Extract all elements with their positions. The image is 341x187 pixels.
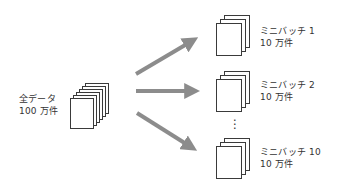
mini-batch-2-name: ミニバッチ 2 (260, 79, 315, 91)
mini-batch-10-count: 10 万件 (260, 158, 321, 170)
arrow-to-batch-1 (136, 41, 192, 74)
mini-batch-1-count: 10 万件 (260, 37, 315, 49)
mini-batch-2-label: ミニバッチ 2 10 万件 (260, 79, 315, 103)
mini-batch-2-count: 10 万件 (260, 91, 315, 103)
mini-batch-1-label: ミニバッチ 1 10 万件 (260, 25, 315, 49)
mini-batch-10-label: ミニバッチ 10 10 万件 (260, 146, 321, 170)
mini-batch-10-name: ミニバッチ 10 (260, 146, 321, 158)
ellipsis-icon: ⋮ (229, 118, 241, 130)
document-page-icon (216, 146, 242, 179)
arrow-to-batch-10 (137, 113, 191, 147)
mini-batch-1-name: ミニバッチ 1 (260, 25, 315, 37)
mini-batch-diagram: 全データ 100 万件 ミニバッチ 1 10 万件 ミニバッチ 2 10 万件 (0, 0, 341, 187)
document-page-icon (216, 23, 242, 56)
document-page-icon (216, 79, 242, 112)
